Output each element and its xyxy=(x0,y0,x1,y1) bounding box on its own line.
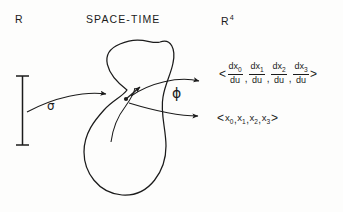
spacetime-manifold-outline xyxy=(84,40,174,195)
derivative-tuple-expression: < dx0 du , dx1 du , dx2 du , dx3 du > xyxy=(218,62,318,85)
label-codomain-r4: R4 xyxy=(221,14,234,26)
diagram-canvas: R SPACE-TIME R4 σ ϕ < dx0 du , dx1 du , … xyxy=(0,0,343,212)
close-angle-bracket: > xyxy=(270,111,279,125)
separator-comma: , xyxy=(265,73,271,85)
sigma-map-arrow xyxy=(27,93,106,112)
close-angle-bracket: > xyxy=(309,67,318,81)
separator-comma: , xyxy=(243,73,249,85)
separator-comma: , xyxy=(287,73,293,85)
label-phi: ϕ xyxy=(172,86,181,100)
derivative-numerator-2: dx2 xyxy=(271,62,286,74)
open-angle-bracket: < xyxy=(218,67,227,81)
tangent-vector-arrow xyxy=(126,87,140,99)
codomain-base: R xyxy=(221,15,230,27)
label-spacetime: SPACE-TIME xyxy=(86,14,160,25)
coordinate-term-1: x1 xyxy=(237,112,245,125)
coordinate-tuple-expression: < x0 , x1 , x2 , x3 > xyxy=(216,111,279,125)
derivative-numerator-0: dx0 xyxy=(228,62,243,74)
derivative-numerator-1: dx1 xyxy=(249,62,264,74)
coordinate-term-0: x0 xyxy=(225,112,233,125)
label-sigma: σ xyxy=(47,100,55,112)
coordinate-term-3: x3 xyxy=(262,112,270,125)
derivative-term-3: dx3 du xyxy=(293,62,308,85)
open-angle-bracket: < xyxy=(216,111,225,125)
domain-interval xyxy=(16,76,29,145)
coordinate-term-2: x2 xyxy=(249,112,257,125)
derivative-denominator-3: du xyxy=(295,75,307,85)
blob-sketch-guide xyxy=(102,40,172,88)
derivative-term-0: dx0 du xyxy=(228,62,243,85)
label-domain-r: R xyxy=(15,14,24,25)
derivative-denominator-0: du xyxy=(229,75,241,85)
derivative-term-1: dx1 du xyxy=(249,62,264,85)
derivative-numerator-3: dx3 xyxy=(293,62,308,74)
codomain-exponent: 4 xyxy=(230,13,234,22)
phi-coordinate-arrow xyxy=(129,103,198,116)
derivative-term-2: dx2 du xyxy=(271,62,286,85)
derivative-denominator-1: du xyxy=(251,75,263,85)
derivative-denominator-2: du xyxy=(273,75,285,85)
